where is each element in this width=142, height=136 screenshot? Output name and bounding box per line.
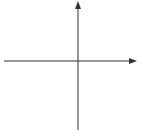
coordinate-plane: [0, 0, 142, 136]
y-axis: [75, 1, 81, 130]
x-axis: [4, 58, 137, 64]
